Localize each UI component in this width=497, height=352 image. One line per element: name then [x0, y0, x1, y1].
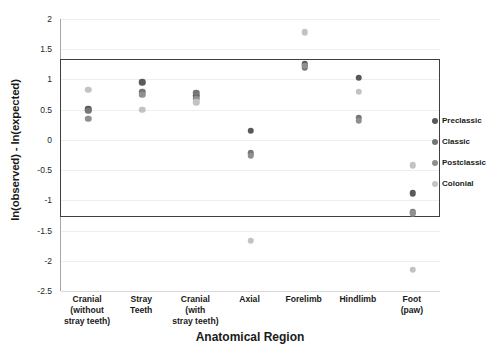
legend-item-preclassic[interactable]: Preclassic — [432, 110, 496, 131]
y-axis-title: ln(observed) - ln(expected) — [0, 0, 30, 300]
y-axis-tick: 0 — [47, 135, 52, 145]
x-axis-tick: Cranial (without stray teeth) — [64, 294, 110, 327]
gridline — [61, 231, 440, 232]
legend-item-classic[interactable]: Classic — [432, 131, 496, 152]
data-point — [247, 152, 254, 159]
data-point — [356, 74, 363, 81]
data-point — [139, 91, 146, 98]
y-axis-tick: 1.5 — [40, 44, 52, 54]
scatter-chart: ln(observed) - ln(expected) 21.510.50-0.… — [0, 0, 497, 352]
legend-marker-icon — [432, 118, 438, 124]
highlight-rectangle — [60, 59, 440, 217]
x-axis-tick: Foot (paw) — [401, 294, 423, 316]
legend-item-label: Postclassic — [442, 158, 486, 167]
gridline — [61, 170, 440, 171]
legend-marker-icon — [432, 181, 438, 187]
y-axis-tick: 1 — [47, 74, 52, 84]
data-point — [356, 88, 363, 95]
x-axis-tick: Axial — [239, 294, 260, 305]
legend-item-label: Preclassic — [442, 116, 482, 125]
y-axis-tick: 0.5 — [40, 105, 52, 115]
legend-item-label: Colonial — [442, 179, 474, 188]
y-axis-tick: -0.5 — [37, 165, 52, 175]
gridline — [61, 79, 440, 80]
data-point — [85, 86, 92, 93]
data-point — [301, 62, 308, 69]
gridline — [61, 200, 440, 201]
x-axis-title: Anatomical Region — [60, 330, 440, 344]
y-axis-tick: 2 — [47, 14, 52, 24]
x-axis-tick: Stray Teeth — [130, 294, 152, 316]
data-point — [301, 29, 308, 36]
gridline — [61, 49, 440, 50]
y-axis-tick: -1 — [44, 195, 52, 205]
data-point — [85, 108, 92, 115]
x-axis-tick: Forelimb — [285, 294, 321, 305]
legend-item-label: Classic — [442, 137, 470, 146]
legend-item-colonial[interactable]: Colonial — [432, 173, 496, 194]
gridline — [61, 140, 440, 141]
y-axis-title-label: ln(observed) - ln(expected) — [9, 79, 21, 221]
legend-marker-icon — [432, 139, 438, 145]
legend-marker-icon — [432, 160, 438, 166]
data-point — [356, 117, 363, 124]
data-point — [410, 162, 417, 169]
y-axis-tick: -1.5 — [37, 226, 52, 236]
legend-item-postclassic[interactable]: Postclassic — [432, 152, 496, 173]
gridline — [61, 110, 440, 111]
data-point — [410, 210, 417, 217]
data-point — [193, 99, 200, 106]
gridline — [61, 19, 440, 20]
y-axis-tick: -2.5 — [37, 286, 52, 296]
plot-area — [60, 19, 440, 291]
x-axis-tick: Hindlimb — [339, 294, 376, 305]
data-point — [139, 79, 146, 86]
gridline — [61, 261, 440, 262]
data-point — [139, 106, 146, 113]
data-point — [85, 115, 92, 122]
data-point — [247, 128, 254, 135]
data-point — [410, 267, 417, 274]
data-point — [247, 238, 254, 245]
data-point — [410, 190, 417, 197]
y-axis-tick-labels: 21.510.50-0.5-1-1.5-2-2.5 — [28, 0, 56, 352]
legend: PreclassicClassicPostclassicColonial — [432, 110, 496, 194]
x-axis-tick: Cranial (with stray teeth) — [172, 294, 218, 327]
gridline — [61, 291, 440, 292]
y-axis-tick: -2 — [44, 256, 52, 266]
